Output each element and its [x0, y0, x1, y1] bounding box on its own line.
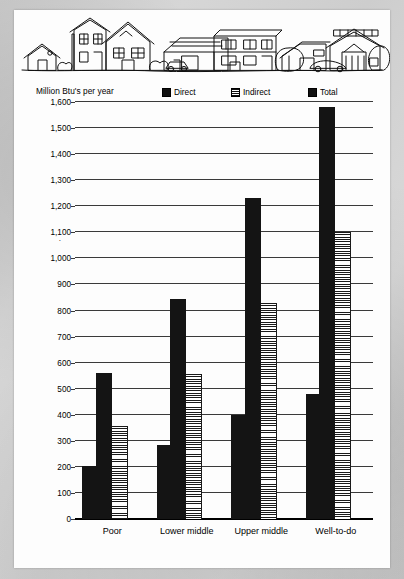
legend: Million Btu's per year Direct Indirect T…	[36, 86, 376, 100]
y-tick-label: 100	[57, 488, 71, 497]
y-tick-label: 600	[57, 358, 71, 367]
bar-indirect	[334, 232, 352, 519]
y-tick-label: 1,600	[51, 98, 72, 107]
houses-svg	[14, 12, 390, 78]
legend-item-indirect: Indirect	[231, 86, 270, 98]
bar-total	[319, 107, 335, 519]
indirect-swatch-icon	[231, 88, 240, 97]
bar-total	[245, 198, 261, 519]
bar-group: Well-to-do	[299, 102, 374, 519]
legend-label-indirect: Indirect	[243, 87, 270, 97]
neighborhood-houses-illustration	[14, 12, 390, 78]
y-axis-title: Million Btu's per year	[36, 86, 114, 96]
x-axis-label: Well-to-do	[299, 526, 374, 536]
y-tick-label: 1,200	[51, 202, 72, 211]
direct-swatch-icon	[162, 88, 171, 97]
y-tick-label: 1,400	[51, 150, 72, 159]
bar-indirect	[185, 374, 203, 519]
bar-group: Upper middle	[224, 102, 299, 519]
legend-label-direct: Direct	[174, 87, 196, 97]
x-axis-label: Lower middle	[150, 526, 225, 536]
y-tick-label: 1,500	[51, 124, 72, 133]
y-tick-mark	[71, 519, 75, 520]
y-tick-label: 400	[57, 410, 71, 419]
y-tick-label: 200	[57, 462, 71, 471]
bar-group: Lower middle	[150, 102, 225, 519]
plot-area: 1,6001,5001,4001,3001,2001,1001,00090080…	[75, 102, 373, 520]
y-tick-label: 500	[57, 384, 71, 393]
x-axis-label: Upper middle	[224, 526, 299, 536]
legend-item-total: Total	[308, 86, 338, 98]
bar-chart: 1,6001,5001,4001,3001,2001,1001,00090080…	[36, 102, 381, 520]
y-tick-label: 1,300	[51, 176, 72, 185]
x-axis-label: Poor	[75, 526, 150, 536]
y-tick-label: 900	[57, 280, 71, 289]
bar-total	[96, 373, 112, 519]
y-tick-label: 1,000	[51, 254, 72, 263]
legend-item-direct: Direct	[162, 86, 196, 98]
y-tick-label: 300	[57, 436, 71, 445]
bar-indirect	[110, 426, 128, 519]
y-tick-label: 0	[66, 515, 71, 524]
bar-group: Poor	[75, 102, 150, 519]
y-tick-label: 800	[57, 306, 71, 315]
bar-total	[170, 299, 186, 519]
chart-page: Million Btu's per year Direct Indirect T…	[0, 0, 404, 579]
y-tick-label: 700	[57, 332, 71, 341]
legend-label-total: Total	[320, 87, 338, 97]
bar-indirect	[259, 303, 277, 519]
total-swatch-icon	[308, 88, 317, 97]
scan-artifact-dot: .	[59, 234, 61, 243]
